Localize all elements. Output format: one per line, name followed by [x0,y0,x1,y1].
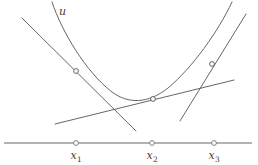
axis-tick-label-x2-base: x [147,149,153,162]
convex-curve-u [52,2,232,101]
axis-marker-x1 [74,141,79,146]
tangent-line-at-x3 [180,14,246,121]
tangent-line-at-x2 [55,80,234,124]
axis-marker-x2 [150,141,155,146]
axis-tick-label-x3: x3 [209,150,220,161]
curve-point-x1 [74,69,79,74]
figure-canvas [0,0,258,165]
curve-point-x2 [151,97,156,102]
axis-tick-label-x1-sub: 1 [77,155,82,164]
convex-function-figure: u x1 x2 x3 [0,0,258,165]
axis-tick-label-x3-base: x [209,149,215,162]
curve-point-x3 [210,62,215,67]
axis-marker-x3 [212,141,217,146]
axis-tick-label-x1-base: x [71,149,77,162]
tangent-line-at-x1 [22,18,136,131]
axis-tick-label-x2: x2 [147,150,158,161]
axis-tick-label-x2-sub: 2 [153,155,158,164]
axis-tick-label-x3-sub: 3 [215,155,220,164]
curve-label-u: u [59,6,66,17]
axis-tick-label-x1: x1 [71,150,82,161]
